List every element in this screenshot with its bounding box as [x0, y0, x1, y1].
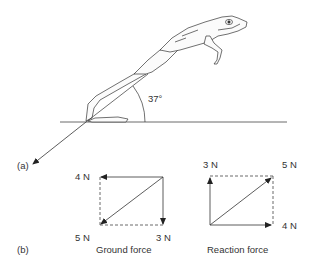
- ground-vertical-label: 3 N: [156, 233, 171, 243]
- reaction-force-caption: Reaction force: [207, 245, 268, 255]
- reaction-vertical-label: 3 N: [203, 160, 218, 170]
- reaction-force-diagram: [210, 176, 273, 225]
- frog-jump-figure: [33, 16, 287, 164]
- ground-horizontal-label: 4 N: [75, 172, 90, 182]
- ground-force-arrow: [33, 122, 86, 164]
- diagram-canvas: [0, 0, 315, 271]
- part-a-label: (a): [17, 161, 29, 171]
- reaction-horizontal-label: 4 N: [282, 221, 297, 231]
- frog-illustration: [86, 16, 247, 122]
- reaction-resultant-label: 5 N: [282, 160, 297, 170]
- ground-resultant-label: 5 N: [75, 233, 90, 243]
- ground-force-caption: Ground force: [96, 245, 151, 255]
- part-b-label: (b): [17, 245, 29, 255]
- angle-label: 37°: [148, 94, 162, 104]
- ground-force-diagram: [100, 177, 163, 225]
- angle-arc: [133, 86, 145, 122]
